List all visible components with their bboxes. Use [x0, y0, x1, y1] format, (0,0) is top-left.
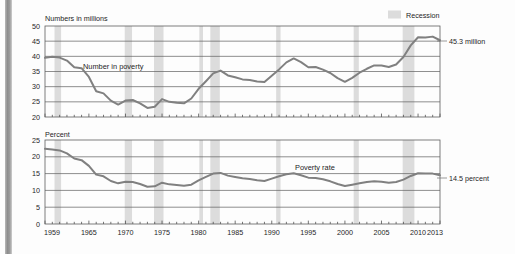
bottom-y-tick-labels: 0510152025	[32, 136, 40, 229]
recession-legend-label: Recession	[406, 11, 440, 20]
y-tick-label: 20	[32, 113, 40, 122]
legend: Recession	[388, 11, 440, 20]
y-tick-label: 15	[32, 169, 40, 178]
x-tick-label: 1965	[81, 228, 97, 237]
top-x-tickmarks	[45, 114, 440, 117]
x-tick-label: 2013	[427, 228, 443, 237]
y-tick-label: 50	[32, 22, 40, 31]
y-tick-label: 0	[36, 220, 40, 229]
poverty-rate-line	[45, 149, 440, 187]
x-tick-label: 1975	[154, 228, 170, 237]
recession-band	[403, 140, 415, 224]
y-tick-label: 30	[32, 82, 40, 91]
page-edge-rule	[5, 0, 12, 254]
number-in-poverty-label: Number in poverty	[83, 62, 144, 71]
chart-page: Recession Numbers in millions 2025303540…	[0, 0, 515, 254]
y-tick-label: 10	[32, 186, 40, 195]
bottom-recession-bands	[55, 140, 415, 224]
x-tick-label: 1990	[264, 228, 280, 237]
bottom-axis-title: Percent	[45, 130, 70, 139]
y-tick-label: 40	[32, 52, 40, 61]
x-tick-label: 2010	[410, 228, 426, 237]
recession-band	[276, 140, 280, 224]
recession-band	[55, 140, 62, 224]
x-tick-label: 1970	[117, 228, 133, 237]
bottom-callout-label: 14.5 percent	[449, 174, 489, 183]
top-callout-label: 45.3 million	[449, 37, 485, 46]
x-tick-label: 1985	[227, 228, 243, 237]
top-axis-title: Numbers in millions	[45, 14, 108, 23]
y-tick-label: 25	[32, 97, 40, 106]
x-tick-label: 1959	[44, 228, 60, 237]
chart-percent: Percent 0510152025 195919651970197519801…	[32, 130, 489, 237]
y-tick-label: 45	[32, 37, 40, 46]
y-tick-label: 20	[32, 152, 40, 161]
recession-band	[354, 140, 359, 224]
x-tick-label: 2005	[373, 228, 389, 237]
chart-numbers-in-millions: Numbers in millions 20253035404550 Numbe…	[32, 14, 485, 122]
x-tick-label: 1980	[191, 228, 207, 237]
bottom-x-tickmarks	[45, 221, 440, 224]
y-tick-label: 25	[32, 136, 40, 145]
poverty-figure: Recession Numbers in millions 2025303540…	[0, 0, 515, 254]
recession-band	[199, 140, 203, 224]
x-tick-label: 2000	[337, 228, 353, 237]
recession-legend-swatch	[388, 11, 401, 19]
poverty-rate-label: Poverty rate	[295, 163, 335, 172]
top-y-tick-labels: 20253035404550	[32, 22, 40, 122]
y-tick-label: 35	[32, 67, 40, 76]
bottom-x-tick-labels: 1959196519701975198019851990199520002005…	[44, 228, 443, 237]
recession-band	[210, 140, 220, 224]
number-in-poverty-line	[45, 37, 440, 108]
x-tick-label: 1995	[300, 228, 316, 237]
y-tick-label: 5	[36, 203, 40, 212]
